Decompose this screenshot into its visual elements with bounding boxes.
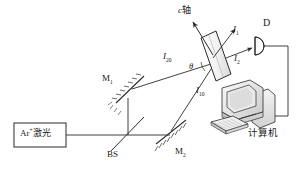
c-axis-label-cjk: 轴 [182, 5, 191, 15]
beam-splitter-label: BS [107, 150, 118, 159]
output-beam-i1-label: I1 [233, 25, 239, 36]
mirror-m1-label-main: M [102, 73, 110, 83]
mirror-m1-label: M1 [102, 74, 113, 85]
mirror-m2-label: M2 [175, 147, 186, 158]
figure-canvas: Ar+激光 BS M1 M2 c轴 θ I20 I10 I1 I2 D 计算机 [0, 0, 298, 170]
i2-label-sub: 2 [237, 59, 240, 65]
mirror-m1-label-sub: 1 [110, 79, 113, 85]
photodetector [255, 37, 264, 55]
output-beam-i2-label: I2 [234, 54, 240, 65]
photodetector-label: D [263, 18, 270, 28]
laser-label-cjk: 激光 [33, 128, 51, 138]
laser-source-label: Ar+激光 [20, 128, 51, 138]
crystal-sample [201, 31, 231, 81]
angle-theta-label: θ [189, 62, 193, 71]
angle-theta-symbol: θ [189, 61, 193, 71]
mirror-m2-label-main: M [175, 146, 183, 156]
mirror-m1 [108, 74, 144, 115]
c-axis-label: c轴 [178, 6, 191, 15]
mirror-m2-label-sub: 2 [183, 152, 186, 158]
laser-label-prefix: Ar [20, 128, 30, 138]
incident-beam-i10-label: I10 [196, 86, 205, 97]
i20-label-sub: 20 [166, 57, 172, 63]
beam-splitter-label-text: BS [107, 149, 118, 159]
diagram-vector-layer [0, 0, 298, 170]
i1-label-sub: 1 [236, 30, 239, 36]
photodetector-label-text: D [263, 17, 270, 28]
i10-label-sub: 10 [199, 91, 205, 97]
beam-splitter [111, 117, 144, 151]
computer-workstation [211, 80, 275, 134]
incident-beam-i10 [171, 66, 213, 131]
incident-beam-i20-label: I20 [163, 52, 172, 63]
computer-label: 计算机 [248, 128, 278, 138]
computer-label-text: 计算机 [248, 127, 278, 138]
